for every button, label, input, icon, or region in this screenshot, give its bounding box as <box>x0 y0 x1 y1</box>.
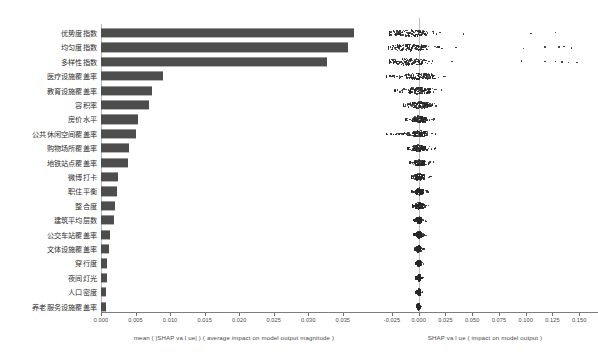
beeswarm-dot <box>438 77 439 78</box>
beeswarm-dot <box>424 150 425 151</box>
beeswarm-dot <box>416 107 417 108</box>
beeswarm-dot <box>413 74 414 75</box>
beeswarm-dot <box>399 91 400 92</box>
beeswarm-dot <box>416 93 417 94</box>
bar <box>101 72 163 81</box>
beeswarm-dot <box>441 48 442 49</box>
bar <box>101 129 136 138</box>
beeswarm-outlier-dot <box>463 33 465 35</box>
beeswarm-dot <box>418 292 419 293</box>
feature-label: 夜间灯光 <box>68 273 97 283</box>
bar <box>101 302 106 311</box>
beeswarm-dot <box>420 102 421 103</box>
beeswarm-dot <box>424 105 425 106</box>
feature-label: 公交车站覆盖率 <box>47 230 97 240</box>
beeswarm-dot <box>419 246 420 247</box>
beeswarm-dot <box>421 92 422 93</box>
beeswarm-dot <box>421 306 422 307</box>
beeswarm-dot <box>422 161 423 162</box>
bar <box>101 288 106 297</box>
beeswarm-dot <box>415 31 416 32</box>
beeswarm-dot <box>414 78 415 79</box>
beeswarm-dot <box>403 60 404 61</box>
beeswarm-dot <box>410 60 411 61</box>
beeswarm-dot <box>424 92 425 93</box>
beeswarm-dot <box>431 119 432 120</box>
beeswarm-dot <box>411 87 412 88</box>
beeswarm-dot <box>410 50 411 51</box>
beeswarm-dot <box>404 106 405 107</box>
beeswarm-dot <box>418 73 419 74</box>
bar <box>101 144 129 153</box>
beeswarm-dot <box>412 45 413 46</box>
beeswarm-dot <box>429 163 430 164</box>
beeswarm-dot <box>428 61 429 62</box>
beeswarm-dot <box>435 133 436 134</box>
beeswarm-row <box>370 298 598 316</box>
bar <box>101 57 327 66</box>
beeswarm-dot <box>419 165 420 166</box>
beeswarm-dot <box>430 78 431 79</box>
beeswarm-dot <box>431 106 432 107</box>
beeswarm-dot <box>407 132 408 133</box>
beeswarm-dot <box>427 107 428 108</box>
beeswarm-dot <box>435 105 436 106</box>
beeswarm-dot <box>427 49 428 50</box>
beeswarm-dot <box>421 64 422 65</box>
beeswarm-dot <box>422 165 423 166</box>
beeswarm-dot <box>421 73 422 74</box>
beeswarm-dot <box>399 63 400 64</box>
beeswarm-dot <box>408 106 409 107</box>
beeswarm-dot <box>434 103 435 104</box>
beeswarm-outlier-dot <box>555 32 557 34</box>
beeswarm-dot <box>391 31 392 32</box>
beeswarm-dot <box>441 89 442 90</box>
beeswarm-outlier-dot <box>576 62 578 64</box>
beeswarm-dot <box>406 50 407 51</box>
bar <box>101 245 109 254</box>
beeswarm-dot <box>421 193 422 194</box>
tick-mark <box>419 313 420 316</box>
feature-label: 建筑平均层数 <box>54 215 97 225</box>
beeswarm-dot <box>432 60 433 61</box>
beeswarm-dot <box>427 63 428 64</box>
beeswarm-dot <box>394 76 395 77</box>
beeswarm-dot <box>428 163 429 164</box>
beeswarm-dot <box>402 62 403 63</box>
bar-axis-label: mean ( |SHAP va l ue| ) ( average impact… <box>134 334 334 341</box>
beeswarm-dot <box>422 61 423 62</box>
beeswarm-dot <box>415 204 416 205</box>
beeswarm-dot <box>406 45 407 46</box>
beeswarm-dot <box>418 75 419 76</box>
beeswarm-dot <box>418 136 419 137</box>
mean-abs-shap-bar-panel: 优势度指数均匀度指数多样性指数医疗设施覆盖率教育设施覆盖率容积率房价水平公共休闲… <box>0 0 370 361</box>
beeswarm-dot <box>402 45 403 46</box>
beeswarm-outlier-dot <box>555 61 557 63</box>
tick-label: 0.025 <box>438 317 453 323</box>
beeswarm-dot <box>412 91 413 92</box>
beeswarm-dot <box>424 134 425 135</box>
beeswarm-dot <box>417 91 418 92</box>
tick-mark <box>308 313 309 316</box>
beeswarm-dot <box>399 30 400 31</box>
beeswarm-dot <box>420 278 421 279</box>
beeswarm-dot <box>422 136 423 137</box>
beeswarm-dot <box>392 75 393 76</box>
bar <box>101 173 118 182</box>
tick-label: 0.025 <box>266 317 281 323</box>
tick-mark <box>526 313 527 316</box>
beeswarm-outlier-dot <box>561 61 563 63</box>
feature-label: 多样性指数 <box>61 57 97 67</box>
beeswarm-dot <box>403 35 404 36</box>
beeswarm-dot <box>411 36 412 37</box>
beeswarm-dot <box>422 177 423 178</box>
beeswarm-dot <box>413 89 414 90</box>
beeswarm-dot <box>420 163 421 164</box>
beeswarm-dot <box>390 34 391 35</box>
beeswarm-dot <box>424 117 425 118</box>
beeswarm-dot <box>419 281 420 282</box>
beeswarm-dot <box>431 63 432 64</box>
beeswarm-dot <box>395 45 396 46</box>
beeswarm-dot <box>420 122 421 123</box>
feature-label: 公共休闲空间覆盖率 <box>32 129 97 139</box>
